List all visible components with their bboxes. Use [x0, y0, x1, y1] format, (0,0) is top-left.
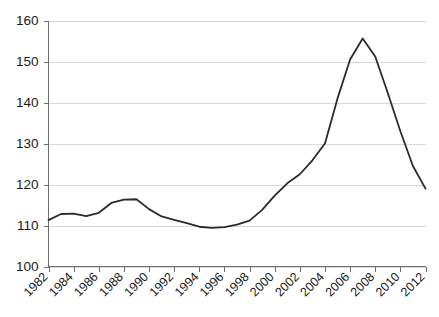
series-group — [49, 39, 426, 228]
y-axis-label-140: 140 — [16, 95, 39, 110]
y-axis-label-110: 110 — [17, 218, 39, 233]
axes — [49, 21, 426, 267]
y-tick-marks — [44, 22, 49, 268]
x-axis-label-1986: 1986 — [71, 270, 101, 300]
chart-container: 100110120130140150160 198219841986198819… — [0, 0, 439, 317]
x-axis-label-1992: 1992 — [147, 270, 177, 300]
y-axis-label-160: 160 — [16, 13, 39, 28]
data-series-line — [49, 39, 426, 228]
x-axis-label-2006: 2006 — [323, 270, 353, 300]
line-chart: 100110120130140150160 198219841986198819… — [0, 0, 439, 317]
x-axis-label-1990: 1990 — [122, 270, 152, 300]
y-axis-label-130: 130 — [16, 136, 39, 151]
grid-lines — [49, 22, 426, 268]
x-tick-labels: 1982198419861988199019921994199619982000… — [21, 270, 428, 300]
x-axis-label-1996: 1996 — [197, 270, 227, 300]
y-axis-label-100: 100 — [16, 259, 39, 274]
x-axis-label-2004: 2004 — [298, 270, 328, 300]
x-axis-label-1982: 1982 — [21, 270, 51, 300]
x-axis-label-2010: 2010 — [373, 270, 403, 300]
x-axis-label-1998: 1998 — [222, 270, 252, 300]
x-axis-label-2000: 2000 — [247, 270, 277, 300]
x-axis-label-2008: 2008 — [348, 270, 378, 300]
y-axis-label-150: 150 — [16, 54, 39, 69]
x-axis-label-2002: 2002 — [272, 270, 302, 300]
x-axis-label-1984: 1984 — [46, 270, 76, 300]
x-axis-label-2012: 2012 — [398, 270, 428, 300]
y-axis-label-120: 120 — [16, 177, 39, 192]
x-axis-label-1994: 1994 — [172, 270, 202, 300]
y-tick-labels: 100110120130140150160 — [16, 13, 39, 274]
x-axis-label-1988: 1988 — [96, 270, 126, 300]
